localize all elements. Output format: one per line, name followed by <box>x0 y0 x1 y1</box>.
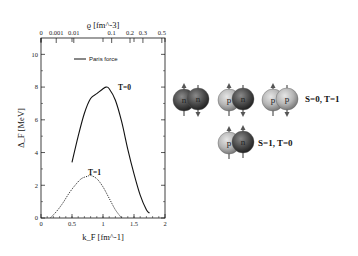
y-tick-label: 2 <box>35 182 38 189</box>
svg-text:n: n <box>241 94 246 104</box>
y-tick-label: 0 <box>35 214 38 221</box>
annotation-t1: T=1 <box>88 168 101 177</box>
top-x-tick-label: 0 <box>39 29 42 36</box>
neutron-sphere-icon: n <box>232 85 254 117</box>
svg-text:n: n <box>182 95 187 105</box>
y-tick-label: 6 <box>35 116 39 123</box>
top-x-tick-label: 0.2 <box>126 29 134 36</box>
series-t0-curve <box>72 87 150 213</box>
x-tick-label: 1.5 <box>130 220 138 227</box>
neutron-sphere-icon: n <box>187 85 209 117</box>
svg-text:n: n <box>196 94 201 104</box>
state-label-s0-t1: S=0, T=1 <box>305 94 340 104</box>
y-tick-label: 4 <box>35 149 39 156</box>
svg-text:n: n <box>241 137 246 147</box>
svg-text:p: p <box>271 95 276 105</box>
y-axis: 0246810 <box>32 51 166 222</box>
y-axis-title: Δ_F [MeV] <box>16 108 26 148</box>
top-x-tick-label: 0.3 <box>139 29 147 36</box>
x-axis: 00.511.52 <box>39 38 166 227</box>
annotation-t0: T=0 <box>118 83 131 92</box>
top-x-tick-label: 0.5 <box>158 29 166 36</box>
proton-sphere-icon: p <box>276 85 298 117</box>
x-axis-title: k_F [fm^-1] <box>82 232 124 242</box>
state-label-s1-t0: S=1, T=0 <box>258 138 293 148</box>
top-x-tick-label: 0.1 <box>108 29 116 36</box>
x-tick-label: 0 <box>39 220 42 227</box>
x-tick-label: 2 <box>163 220 166 227</box>
svg-text:p: p <box>227 95 232 105</box>
top-x-axis-title: ϱ [fm^-3] <box>87 20 120 30</box>
top-x-axis: 00.0010.010.10.20.30.5 <box>39 29 166 43</box>
series-t1-curve <box>50 175 121 218</box>
top-x-tick-label: 0.01 <box>68 29 79 36</box>
y-tick-label: 8 <box>35 83 38 90</box>
y-tick-label: 10 <box>32 51 39 58</box>
legend: Paris force <box>74 56 118 62</box>
svg-text:p: p <box>285 94 290 104</box>
svg-text:p: p <box>227 138 232 148</box>
x-tick-label: 0.5 <box>68 220 76 227</box>
plot-frame <box>41 38 165 218</box>
neutron-sphere-icon: n <box>232 125 254 158</box>
pairing-gap-chart: 00.511.52 00.0010.010.10.20.30.5 0246810… <box>0 0 358 256</box>
plot-area <box>41 38 165 218</box>
top-x-tick-label: 0.001 <box>49 29 64 36</box>
x-tick-label: 1 <box>101 220 104 227</box>
legend-label: Paris force <box>89 56 118 62</box>
